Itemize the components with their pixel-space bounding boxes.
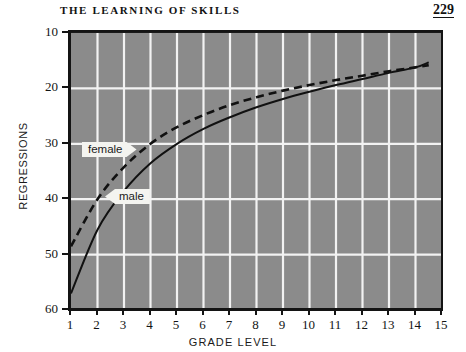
x-tick: [440, 308, 442, 315]
x-tick-label: 15: [429, 318, 453, 332]
x-tick: [387, 308, 389, 315]
x-tick: [414, 308, 416, 315]
x-tick-label: 2: [85, 318, 109, 332]
x-tick-label: 8: [244, 318, 268, 332]
series-label-female: female: [82, 142, 137, 157]
y-tick-label: 50: [28, 247, 58, 260]
y-tick: [62, 142, 70, 144]
x-tick: [361, 308, 363, 315]
y-tick-label: 40: [28, 191, 58, 204]
x-tick-label: 9: [270, 318, 294, 332]
x-tick-label: 10: [297, 318, 321, 332]
x-tick-label: 3: [111, 318, 135, 332]
figure-regressions-by-grade-level: THE LEARNING OF SKILLS 229 102030405060 …: [0, 0, 466, 352]
running-head: THE LEARNING OF SKILLS: [60, 4, 241, 16]
x-tick-label: 11: [323, 318, 347, 332]
x-tick: [69, 308, 71, 315]
x-tick-label: 1: [58, 318, 82, 332]
x-tick: [122, 308, 124, 315]
x-tick-label: 4: [138, 318, 162, 332]
x-tick-label: 6: [191, 318, 215, 332]
x-tick-label: 5: [164, 318, 188, 332]
y-tick-label: 20: [28, 80, 58, 93]
y-tick: [62, 253, 70, 255]
x-tick: [149, 308, 151, 315]
y-tick-label: 10: [28, 25, 58, 38]
y-tick-label: 60: [28, 302, 58, 315]
x-tick-label: 13: [376, 318, 400, 332]
plot-area: [70, 32, 443, 311]
y-tick-label: 30: [28, 136, 58, 149]
x-tick-label: 7: [217, 318, 241, 332]
x-tick-label: 14: [403, 318, 427, 332]
x-tick: [334, 308, 336, 315]
plot-top-rule: [68, 30, 443, 32]
plot-canvas: [71, 33, 442, 310]
y-axis-title: REGRESSIONS: [17, 91, 29, 241]
y-tick: [62, 86, 70, 88]
x-tick-label: 12: [350, 318, 374, 332]
x-axis-title: GRADE LEVEL: [0, 336, 466, 348]
gridlines: [71, 33, 442, 310]
y-tick: [62, 31, 70, 33]
x-tick: [255, 308, 257, 315]
y-tick: [62, 197, 70, 199]
x-tick: [308, 308, 310, 315]
y-axis-line: [68, 31, 71, 311]
x-tick: [202, 308, 204, 315]
x-tick: [175, 308, 177, 315]
page-header: THE LEARNING OF SKILLS 229: [0, 0, 466, 26]
x-tick: [228, 308, 230, 315]
x-tick: [96, 308, 98, 315]
page-number: 229: [433, 2, 454, 18]
x-tick: [281, 308, 283, 315]
plot-right-rule: [441, 31, 443, 311]
